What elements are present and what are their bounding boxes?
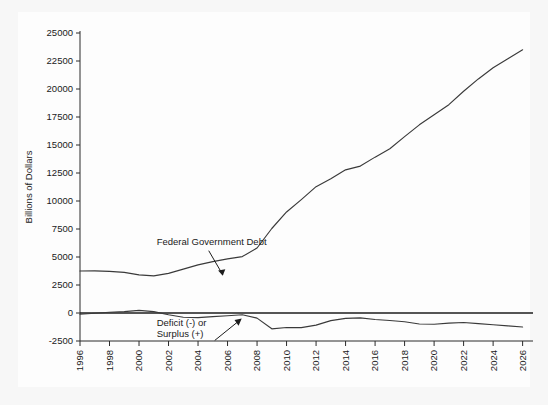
x-tick-label: 2022 [458, 350, 469, 371]
x-axis: 1996199820002002200420062008201020122014… [74, 341, 533, 371]
y-tick-label: 25000 [47, 27, 73, 38]
x-tick-label: 2018 [399, 350, 410, 371]
x-tick-label: 1998 [104, 350, 115, 371]
x-tick-label: 2010 [281, 350, 292, 371]
y-tick-label: 20000 [47, 83, 73, 94]
y-tick-label: 10000 [47, 195, 73, 206]
y-tick-label: 22500 [47, 55, 73, 66]
y-axis-title: Billions of Dollars [23, 150, 34, 223]
x-tick-label: 1996 [74, 350, 85, 371]
annotation-deficit-label-line1: Deficit (-) or [157, 317, 207, 328]
annotation-deficit-label-line2: Surplus (+) [157, 328, 204, 339]
annotation-debt-arrowhead [218, 269, 225, 275]
y-tick-label: 17500 [47, 111, 73, 122]
x-tick-label: 2020 [428, 350, 439, 371]
y-axis: 2500022500200001750015000125001000075005… [23, 27, 80, 346]
x-tick-label: 2008 [251, 350, 262, 371]
x-tick-label: 2006 [222, 350, 233, 371]
x-tick-label: 2000 [133, 350, 144, 371]
x-tick-label: 2024 [488, 350, 499, 371]
x-tick-label: 2012 [310, 350, 321, 371]
x-tick-label: 2002 [163, 350, 174, 371]
series-line-debt [80, 50, 523, 276]
x-tick-label: 2026 [517, 350, 528, 371]
x-tick-label: 2016 [369, 350, 380, 371]
y-tick-label: 5000 [52, 251, 73, 262]
y-tick-label: 12500 [47, 167, 73, 178]
y-tick-label: -2500 [49, 335, 73, 346]
annotation-debt-label: Federal Government Debt [157, 236, 267, 247]
x-tick-label: 2004 [192, 350, 203, 371]
chart-figure: 2500022500200001750015000125001000075005… [0, 0, 548, 405]
line-chart: 2500022500200001750015000125001000075005… [0, 0, 548, 405]
series-lines [80, 50, 533, 329]
x-tick-label: 2014 [340, 350, 351, 371]
annotation-deficit-arrowhead [235, 318, 242, 325]
y-tick-label: 2500 [52, 279, 73, 290]
y-tick-label: 7500 [52, 223, 73, 234]
y-tick-label: 0 [68, 307, 73, 318]
y-tick-label: 15000 [47, 139, 73, 150]
